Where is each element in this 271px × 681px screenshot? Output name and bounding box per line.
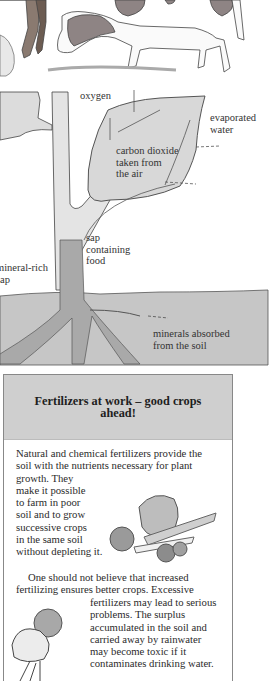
label-line: containing (86, 244, 130, 256)
label-line: the air (116, 168, 179, 180)
label-line: sap (0, 274, 48, 286)
label-line: taken from (116, 157, 179, 169)
text-line: may become toxic if it (90, 645, 216, 657)
grass (48, 67, 176, 70)
label-oxygen: oxygen (80, 90, 111, 102)
paragraph-2: One should not believe that increased fe… (16, 571, 194, 596)
text-line: contaminates drinking water. (90, 657, 216, 669)
label-line: sap (86, 232, 130, 244)
text-line: Natural and chemical fertilizers provide… (16, 447, 202, 459)
paragraph-2-continued: fertilizers may lead to serious problems… (90, 596, 216, 670)
label-minerals-absorbed: minerals absorbed from the soil (153, 328, 230, 351)
fertilizer-info-box: Fertilizers at work – good crops ahead! … (3, 374, 233, 681)
text-line: One should not believe that increased (16, 571, 194, 583)
cows-illustration (0, 0, 271, 80)
cabbage-illustration (8, 605, 72, 681)
label-evaporated-water: evaporated water (210, 112, 256, 135)
text-line: fertilizers may lead to serious (90, 596, 216, 608)
label-line: from the soil (153, 340, 230, 352)
label-line: evaporated (210, 112, 256, 124)
label-line: water (210, 124, 256, 136)
text-line: carried away by rainwater (90, 633, 216, 645)
text-line: soil with the nutrients necessary for pl… (16, 459, 202, 471)
label-mineral-sap: mineral-rich sap (0, 262, 48, 285)
label-line: minerals absorbed (153, 328, 230, 340)
sheep-edge (0, 35, 14, 76)
label-line: mineral-rich (0, 262, 48, 274)
text-line: problems. The surplus (90, 608, 216, 620)
cow-right (58, 0, 245, 72)
text-line: growth. They (16, 472, 202, 484)
vegetables-illustration (104, 487, 222, 567)
left-leaf (0, 92, 52, 140)
label-line: food (86, 255, 130, 267)
box-header: Fertilizers at work – good crops ahead! (4, 375, 232, 440)
label-line: carbon dioxide (116, 145, 179, 157)
text-line: fertilizing ensures better crops. Excess… (16, 583, 194, 595)
box-title: Fertilizers at work – good crops ahead! (4, 395, 232, 419)
label-sap-food: sap containing food (86, 232, 130, 267)
label-carbon-dioxide: carbon dioxide taken from the air (116, 145, 179, 180)
text-line: accumulated in the soil and (90, 621, 216, 633)
